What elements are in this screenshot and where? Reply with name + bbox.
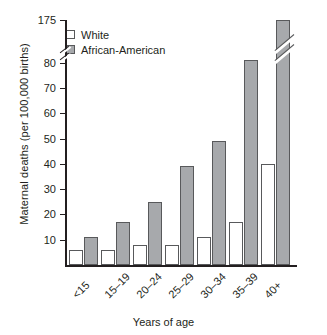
x-tick-label-25-29: 25–29 [166,270,196,300]
x-tick-label-30-34: 30–34 [198,270,228,300]
y-tick-20 [60,214,65,215]
x-tick-label-20-24: 20–24 [134,270,164,300]
bar-group-25-29 [164,20,196,265]
bar-group-35-39 [228,20,260,265]
y-tick-60 [60,113,65,114]
y-tick-label-80: 80 [44,57,56,69]
bar-group--15 [68,20,100,265]
bar-group-15-19 [100,20,132,265]
y-tick-label-20: 20 [44,208,56,220]
bar-white-15-19 [101,250,115,265]
bar-white--15 [69,250,83,265]
y-tick-label-175: 175 [38,14,56,26]
y-tick-10 [60,240,65,241]
y-tick-label-60: 60 [44,107,56,119]
plot-area: 175 1020304050607080 <1515–1920–2425–293… [65,20,297,267]
x-tick-label-40-: 40+ [262,279,284,301]
x-axis-title: Years of age [0,316,327,328]
y-axis-title: Maternal deaths (per 100,000 births) [18,27,30,242]
y-tick-40 [60,164,65,165]
y-tick-175 [60,20,65,21]
bar-african-american-15-19 [116,222,130,265]
x-tick-label--15: <15 [70,279,92,301]
bar-white-25-29 [165,245,179,265]
bar-group-20-24 [132,20,164,265]
bar-african-american-35-39 [244,60,258,265]
bar-white-30-34 [197,237,211,265]
y-tick-70 [60,88,65,89]
bar-white-35-39 [229,222,243,265]
bar-white-40- [261,164,275,265]
y-tick-label-70: 70 [44,82,56,94]
y-tick-50 [60,139,65,140]
bar-group-40- [260,20,292,265]
y-tick-label-40: 40 [44,158,56,170]
bar-african-american--15 [84,237,98,265]
x-axis-line [65,265,297,267]
bar-african-american-25-29 [180,166,194,265]
y-tick-label-30: 30 [44,183,56,195]
bar-african-american-20-24 [148,202,162,265]
y-tick-80 [60,63,65,64]
y-tick-30 [60,189,65,190]
y-tick-label-50: 50 [44,133,56,145]
x-tick-label-15-19: 15–19 [102,270,132,300]
bar-white-20-24 [133,245,147,265]
chart-figure: Maternal deaths (per 100,000 births) Whi… [0,0,327,335]
bar-african-american-30-34 [212,141,226,265]
bar-group-30-34 [196,20,228,265]
bar-african-american-40- [276,20,290,265]
y-tick-label-10: 10 [44,234,56,246]
x-tick-label-35-39: 35–39 [230,270,260,300]
